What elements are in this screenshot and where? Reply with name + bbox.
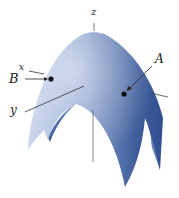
point-a-label: A: [155, 53, 164, 65]
y-axis-label: y: [10, 104, 17, 116]
x-axis: [29, 71, 44, 74]
point-a: [121, 91, 126, 96]
point-b: [48, 76, 53, 81]
paraboloid-diagram: z x B A y: [0, 0, 179, 198]
point-b-label: B: [9, 72, 19, 85]
z-axis-label: z: [91, 7, 96, 17]
surface-graphic: [0, 0, 179, 198]
x-axis-label: x: [19, 63, 24, 72]
